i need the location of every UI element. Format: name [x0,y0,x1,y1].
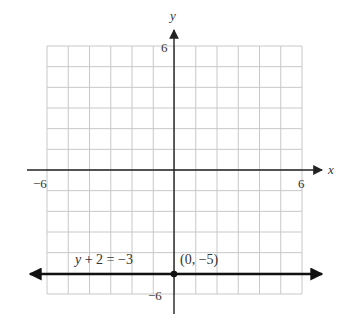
coordinate-plane: x y −6 6 6 −6 y + 2 = −3 (0, −5) [0,0,354,325]
y-max-tick-label: 6 [161,40,168,55]
y-axis-label: y [168,8,176,23]
y-min-tick-label: −6 [148,288,162,303]
point-label: (0, −5) [180,252,219,268]
x-axis-label: x [327,162,334,177]
point-0-neg5 [171,271,178,278]
x-min-tick-label: −6 [33,176,47,191]
x-max-tick-label: 6 [298,176,305,191]
equation-label: y + 2 = −3 [73,252,133,267]
equation-label-rest: + 2 = −3 [81,252,133,267]
